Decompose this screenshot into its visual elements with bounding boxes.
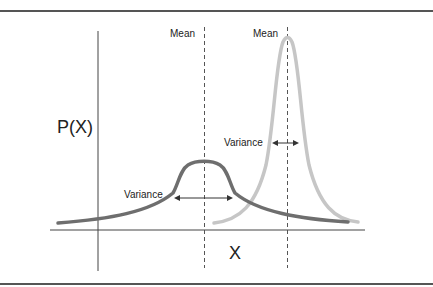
variance-arrow-wide [174,195,233,201]
variance-label-narrow: Variance [224,137,263,148]
y-axis-label: P(X) [57,117,93,137]
x-axis-label: X [229,243,241,263]
variance-arrow-narrow [272,140,299,146]
wide-distribution-curve [58,161,348,223]
mean-label-narrow: Mean [253,28,278,39]
mean-label-wide: Mean [170,28,195,39]
probability-distribution-diagram: P(X) X Mean Mean Variance Variance [0,0,433,287]
variance-label-wide: Variance [124,189,163,200]
